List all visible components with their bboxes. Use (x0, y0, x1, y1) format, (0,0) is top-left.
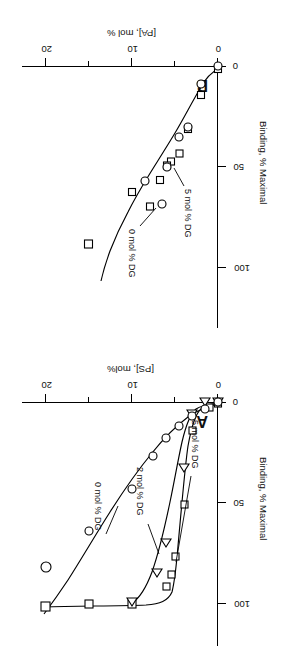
panel-a-annotation-0molDG: 0 mol % DG (93, 482, 102, 531)
panel-b-annotation-0molDG: 0 mol % DG (127, 229, 136, 278)
panel-a-plot: 0 10 20 0 50 100 [PS], mol% Binding, % M… (0, 336, 296, 672)
panel-a-leader-0molDG (106, 506, 118, 534)
panel-b: 0 10 20 0 50 100 [PA], mol % Binding, % … (0, 0, 296, 336)
panel-a: 0 10 20 0 50 100 [PS], mol% Binding, % M… (0, 336, 296, 672)
panel-a-leader-2molDG (148, 524, 159, 554)
panel-b-annotation-5molDG: 5 mol % DG (183, 189, 192, 238)
panel-b-graphics (0, 0, 296, 336)
panel-b-leader-5molDG (174, 168, 184, 186)
panel-a-annotation-5molDG: 5 mol % DG (190, 420, 199, 469)
panel-b-series-0molDG (141, 62, 222, 208)
panel-b-series-5molDG (85, 66, 222, 249)
panel-b-leader-0molDG (140, 208, 156, 226)
panel-a-graphics (0, 336, 296, 672)
panel-b-plot: 0 10 20 0 50 100 [PA], mol % Binding, % … (0, 0, 296, 336)
panel-a-annotation-2molDG: 2 mol % DG (135, 467, 144, 516)
figure-canvas: 0 10 20 0 50 100 [PA], mol % Binding, % … (0, 0, 296, 672)
panel-b-fit-curve (101, 69, 218, 281)
